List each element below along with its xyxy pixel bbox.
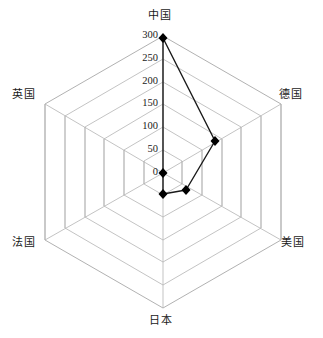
tick-label-200: 200 bbox=[133, 76, 158, 87]
radar-chart-canvas bbox=[0, 0, 323, 338]
marker-japan bbox=[159, 189, 168, 199]
axis-label-china: 中国 bbox=[148, 10, 171, 21]
series-markers bbox=[159, 33, 220, 199]
tick-label-300: 300 bbox=[133, 30, 158, 41]
marker-china bbox=[159, 33, 168, 43]
axis-label-usa: 美国 bbox=[281, 237, 304, 248]
tick-label-100: 100 bbox=[133, 121, 158, 132]
radar-series bbox=[159, 33, 220, 199]
axis-label-uk: 英国 bbox=[12, 89, 35, 100]
tick-label-250: 250 bbox=[133, 53, 158, 64]
tick-label-150: 150 bbox=[133, 98, 158, 109]
axis-label-france: 法国 bbox=[12, 237, 35, 248]
tick-label-50: 50 bbox=[133, 144, 158, 155]
tick-label-0: 0 bbox=[133, 167, 158, 178]
axis-label-japan: 日本 bbox=[149, 315, 172, 326]
axis-label-germany: 德国 bbox=[279, 89, 302, 100]
marker-usa bbox=[182, 185, 191, 195]
radar-chart: 中国 德国 美国 日本 法国 英国 300 250 200 150 100 50… bbox=[0, 0, 323, 338]
marker-france bbox=[159, 168, 168, 178]
